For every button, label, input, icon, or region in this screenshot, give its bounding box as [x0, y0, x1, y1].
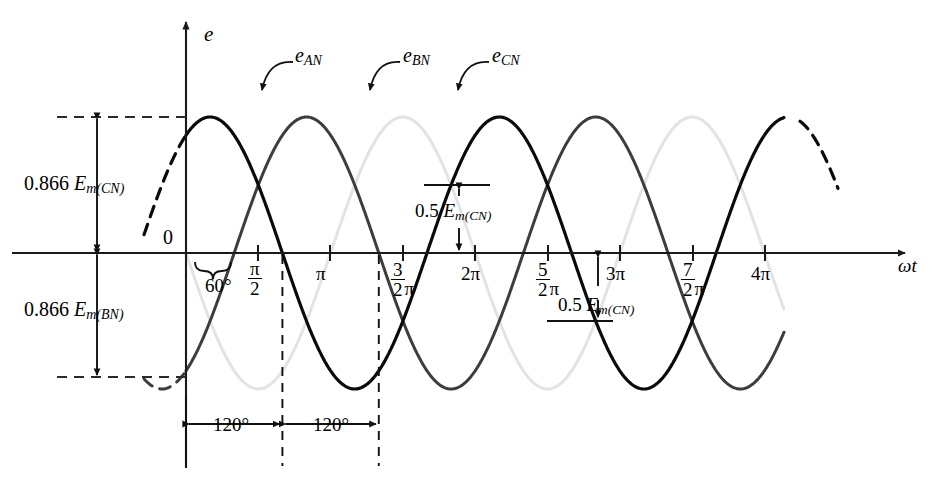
curve-label-e-bn-base: e	[403, 44, 412, 66]
annotation-0866-em-bn-base: E	[74, 298, 86, 320]
x-tick-label-three-pi: 3π	[606, 263, 625, 285]
curve-label-e-an-base: e	[295, 44, 304, 66]
annotation-05-em-cn-upper-base: E	[444, 200, 456, 221]
annotation-05-em-cn-lower-sub: m(CN)	[598, 302, 634, 317]
annotation-0866-em-bn-prefix: 0.866	[24, 298, 69, 320]
annotation-05-em-cn-lower-prefix: 0.5	[558, 294, 582, 315]
x-tick-label-two-pi: 2π	[461, 263, 480, 285]
origin-label: 0	[163, 226, 173, 249]
y-axis-label: e	[204, 22, 213, 47]
annotation-0866-em-bn: 0.866 Em(BN)	[24, 298, 124, 323]
x-tick-label-pi-over-2: π2	[248, 259, 262, 299]
annotation-05-em-cn-upper-sub: m(CN)	[455, 208, 491, 223]
x-axis-label: ωt	[898, 255, 917, 277]
x-tick-label-pi: π	[316, 263, 326, 285]
curve-label-e-bn-sub: BN	[412, 53, 430, 68]
x-tick-label-four-pi: 4π	[751, 263, 770, 285]
annotation-0866-em-cn: 0.866 Em(CN)	[24, 172, 124, 197]
x-tick-label-seven-halves-pi: 72π	[681, 259, 704, 300]
annotation-0866-em-cn-sub: m(CN)	[86, 181, 124, 196]
annotation-0866-em-bn-sub: m(BN)	[86, 307, 123, 322]
x-tick-label-five-halves-pi: 52π	[536, 259, 559, 300]
x-tick-label-three-halves-pi: 32π	[391, 259, 414, 300]
annotation-angle-120-first: 120°	[213, 414, 249, 436]
annotation-05-em-cn-upper: 0.5 Em(CN)	[415, 200, 491, 224]
annotation-0866-em-cn-base: E	[74, 172, 86, 194]
annotation-05-em-cn-lower-base: E	[587, 294, 599, 315]
figure-canvas: e ωt 0 eAN eBN eCN 0.866 Em(CN) 0.866 Em…	[0, 0, 936, 490]
curve-label-e-cn-sub: CN	[501, 53, 520, 68]
curve-label-e-an: eAN	[295, 44, 322, 69]
curve-label-e-cn: eCN	[492, 44, 520, 69]
curve-label-e-an-sub: AN	[304, 53, 322, 68]
annotation-angle-120-second: 120°	[313, 414, 349, 436]
annotation-05-em-cn-upper-prefix: 0.5	[415, 200, 439, 221]
curve-label-e-bn: eBN	[403, 44, 430, 69]
annotation-05-em-cn-lower: 0.5 Em(CN)	[558, 294, 634, 318]
waveform-plot	[0, 0, 936, 490]
annotation-0866-em-cn-prefix: 0.866	[24, 172, 69, 194]
annotation-angle-60: 60°	[205, 275, 232, 297]
curve-label-e-cn-base: e	[492, 44, 501, 66]
